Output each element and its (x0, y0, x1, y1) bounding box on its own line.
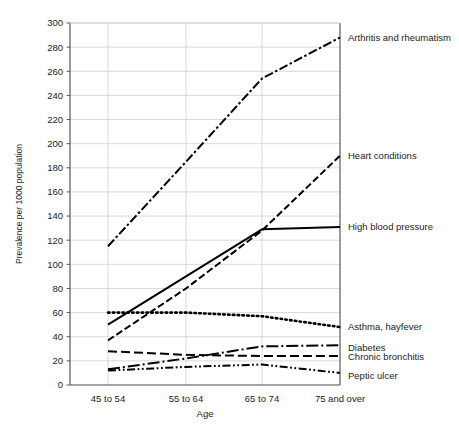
y-tick-label-220: 220 (47, 114, 63, 125)
y-tick-label-160: 160 (47, 186, 63, 197)
y-axis-title: Prevalence per 1000 population (14, 144, 24, 264)
x-tick-label-3: 75 and over (315, 393, 365, 404)
y-tick-label-60: 60 (52, 307, 63, 318)
series-label-2: High blood pressure (348, 221, 433, 232)
y-tick-label-20: 20 (52, 355, 63, 366)
series-label-1: Heart conditions (348, 150, 417, 161)
chart-background (0, 0, 459, 428)
y-tick-label-180: 180 (47, 162, 63, 173)
chart-container: 0204060801001201401601802002202402602803… (0, 0, 459, 428)
y-tick-label-100: 100 (47, 259, 63, 270)
series-label-3: Asthma, hayfever (348, 321, 422, 332)
x-tick-label-0: 45 to 54 (91, 393, 125, 404)
line-chart: 0204060801001201401601802002202402602803… (0, 0, 459, 428)
y-tick-label-140: 140 (47, 210, 63, 221)
y-tick-label-80: 80 (52, 283, 63, 294)
x-tick-label-2: 65 to 74 (245, 393, 279, 404)
y-tick-label-0: 0 (58, 379, 63, 390)
series-label-0: Arthritis and rheumatism (348, 32, 451, 43)
series-label-6: Peptic ulcer (348, 370, 398, 381)
y-tick-label-120: 120 (47, 235, 63, 246)
x-axis-title: Age (197, 408, 214, 419)
y-tick-label-240: 240 (47, 90, 63, 101)
x-tick-label-1: 55 to 64 (169, 393, 203, 404)
y-tick-label-200: 200 (47, 138, 63, 149)
y-tick-label-280: 280 (47, 42, 63, 53)
y-tick-label-300: 300 (47, 17, 63, 28)
y-tick-label-260: 260 (47, 66, 63, 77)
y-tick-label-40: 40 (52, 331, 63, 342)
series-label-5: Chronic bronchitis (348, 351, 424, 362)
